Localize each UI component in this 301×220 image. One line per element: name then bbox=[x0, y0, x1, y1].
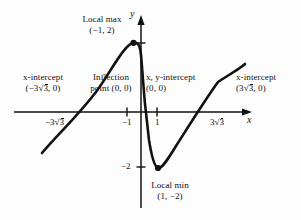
local-max-point bbox=[130, 40, 136, 46]
inflection-line2: point (0, 0) bbox=[80, 83, 142, 94]
x-tick-label-pos1: 1 bbox=[155, 117, 160, 127]
x-intercept-right-line1: x-intercept bbox=[236, 72, 301, 83]
annotation-x-intercept-right: x-intercept (3√3, 0) bbox=[236, 72, 301, 94]
local-min-line2: (1, −2) bbox=[132, 191, 208, 202]
local-max-line1: Local max bbox=[64, 14, 140, 25]
x-axis-label: x bbox=[247, 114, 251, 125]
annotation-xy-intercept: x, y-intercept (0, 0) bbox=[146, 72, 214, 94]
inflection-line1: Inflection bbox=[80, 72, 142, 83]
annotation-inflection-point: Inflection point (0, 0) bbox=[80, 72, 142, 94]
graph-figure: y x −3√3 −1 1 3√3 −2 Local max (−1, 2) x… bbox=[0, 0, 301, 220]
annotation-local-min: Local min (1, −2) bbox=[132, 180, 208, 202]
x-tick-label-3root3: 3√3 bbox=[210, 117, 224, 127]
local-min-line1: Local min bbox=[132, 180, 208, 191]
x-intercept-right-line2: (3√3, 0) bbox=[236, 83, 301, 94]
y-tick-label-neg2: −2 bbox=[121, 161, 131, 171]
x-tick-label-neg-3root3: −3√3 bbox=[45, 117, 64, 127]
xy-intercept-line1: x, y-intercept bbox=[146, 72, 214, 83]
annotation-x-intercept-left: x-intercept (−3√3, 0) bbox=[6, 72, 80, 94]
x-tick-label-neg1: −1 bbox=[122, 117, 132, 127]
annotation-local-max: Local max (−1, 2) bbox=[64, 14, 140, 36]
x-axis bbox=[14, 108, 252, 115]
xy-intercept-line2: (0, 0) bbox=[146, 83, 214, 94]
x-intercept-left-line2: (−3√3, 0) bbox=[6, 83, 80, 94]
function-curve bbox=[42, 43, 245, 168]
local-min-point bbox=[155, 165, 161, 171]
x-intercept-left-line1: x-intercept bbox=[6, 72, 80, 83]
local-max-line2: (−1, 2) bbox=[64, 25, 140, 36]
